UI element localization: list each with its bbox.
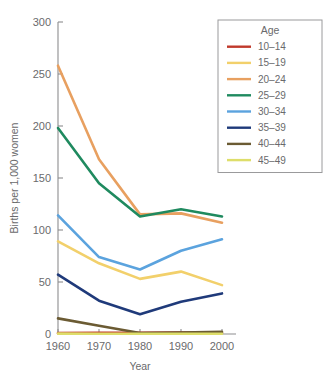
legend-label: 40–44 (258, 138, 286, 149)
births-by-age-line-chart: 05010015020025030019601970198019902000Ye… (0, 0, 336, 385)
chart-legend[interactable]: Age10–1415–1920–2425–2930–3435–3940–4445… (218, 20, 322, 173)
y-tick-label: 150 (33, 172, 51, 184)
x-tick-label: 1970 (87, 340, 111, 352)
legend-label: 15–19 (258, 57, 286, 68)
axes-layer (58, 22, 236, 334)
y-tick-label: 250 (33, 68, 51, 80)
x-axis-title: Year (129, 360, 151, 372)
series-line-30-34 (58, 215, 222, 269)
y-tick-label: 100 (33, 224, 51, 236)
series-line-15-19 (58, 241, 222, 285)
axis-labels-layer: 05010015020025030019601970198019902000Ye… (8, 16, 234, 372)
legend-label: 30–34 (258, 106, 286, 117)
legend-label: 25–29 (258, 90, 286, 101)
legend-title: Age (261, 24, 280, 36)
y-tick-label: 300 (33, 16, 51, 28)
legend-label: 20–24 (258, 74, 286, 85)
legend-label: 10–14 (258, 41, 286, 52)
x-tick-label: 1960 (46, 340, 70, 352)
legend-label: 35–39 (258, 122, 286, 133)
series-line-20-24 (58, 66, 222, 223)
y-axis-title: Births per 1,000 women (8, 122, 20, 233)
x-tick-label: 2000 (210, 340, 234, 352)
series-line-35-39 (58, 275, 222, 315)
x-tick-label: 1990 (169, 340, 193, 352)
y-tick-label: 0 (45, 328, 51, 340)
y-tick-label: 50 (39, 276, 51, 288)
chart-canvas: 05010015020025030019601970198019902000Ye… (0, 0, 336, 385)
legend-label: 45–49 (258, 155, 286, 166)
y-tick-label: 200 (33, 120, 51, 132)
x-tick-label: 1980 (128, 340, 152, 352)
series-line-25-29 (58, 128, 222, 216)
series-layer (58, 66, 222, 334)
